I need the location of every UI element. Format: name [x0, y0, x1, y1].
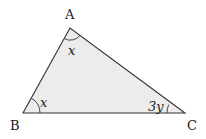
angle-label-a: x [68, 43, 76, 58]
vertex-label-b: B [10, 118, 20, 133]
vertex-label-a: A [64, 7, 75, 22]
angle-label-c: 3y [148, 99, 164, 114]
triangle-figure: A B C x x 3y [0, 0, 206, 139]
triangle-diagram: A B C x x 3y [0, 0, 206, 139]
angle-label-b: x [40, 95, 48, 110]
vertex-label-c: C [187, 118, 197, 133]
